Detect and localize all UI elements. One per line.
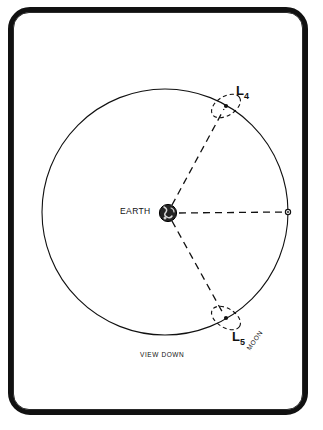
l5-label-text: L xyxy=(232,329,240,344)
l4-label-text: L xyxy=(236,83,244,98)
l4-point xyxy=(224,104,228,108)
l4-label: L4 xyxy=(236,84,249,101)
l5-label-subscript: 5 xyxy=(240,337,245,347)
view-down-annotation: VIEW DOWN xyxy=(140,352,184,359)
orbital-diagram-svg xyxy=(0,0,323,430)
radial-line-earth-l5 xyxy=(172,221,224,315)
earth-label: EARTH xyxy=(120,207,151,216)
moon-marker xyxy=(285,209,290,214)
radial-line-earth-moon xyxy=(179,212,285,213)
figure-root: EARTH L4 L5 VIEW DOWN MOON xyxy=(0,0,323,430)
radial-line-earth-l4 xyxy=(172,109,224,205)
l5-point xyxy=(224,316,228,320)
l4-label-subscript: 4 xyxy=(244,91,249,101)
diagram-canvas xyxy=(0,0,323,430)
earth-globe-icon xyxy=(159,204,176,221)
l5-label: L5 xyxy=(232,330,245,347)
